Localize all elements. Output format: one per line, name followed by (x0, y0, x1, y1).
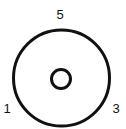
label-pin-5: 5 (56, 7, 63, 22)
outer-circle (14, 30, 110, 126)
inner-circle (52, 70, 71, 89)
label-pin-1: 1 (3, 101, 10, 116)
pinout-diagram: 5 1 3 (0, 0, 126, 129)
label-pin-3: 3 (112, 101, 119, 116)
